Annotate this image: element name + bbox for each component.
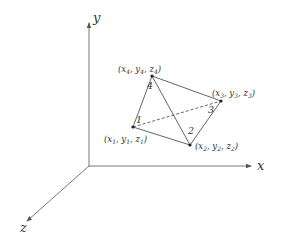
z-axis	[27, 166, 89, 221]
node-2-coords: (x2, y2, z2)	[195, 141, 238, 152]
node-1-coords: (x1, y1, z1)	[104, 134, 147, 145]
x-axis-label: x	[257, 158, 265, 173]
node-3-number: 3	[208, 104, 214, 115]
y-axis-label: y	[92, 10, 101, 25]
edge-2-3	[190, 101, 221, 145]
edge-4-3	[152, 76, 221, 101]
tetrahedron-diagram: y x z 1 2 3 4 (x1, y1, z1) (x2, y2, z2) …	[0, 0, 283, 240]
node-4-coords: (x4, y4, z4)	[118, 64, 161, 75]
node-1-number: 1	[136, 114, 142, 125]
node-2-number: 2	[187, 125, 194, 136]
node-4-number: 4	[146, 80, 153, 91]
node-3-point	[219, 99, 222, 102]
node-2-point	[188, 143, 191, 146]
z-axis-label: z	[19, 220, 27, 235]
node-3-coords: (x3, y3, z3)	[212, 88, 255, 99]
node-1-point	[131, 125, 134, 128]
